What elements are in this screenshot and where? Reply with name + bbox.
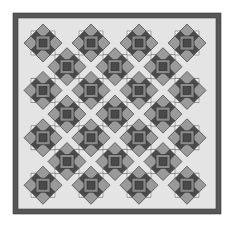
square-center (183, 134, 191, 142)
quilt-image (0, 0, 236, 225)
square-center (39, 181, 47, 189)
framed-squares (36, 36, 194, 192)
square-center (159, 158, 167, 166)
square-center (159, 110, 167, 118)
square-center (183, 181, 191, 189)
square-center (183, 39, 191, 47)
square-center (111, 158, 119, 166)
square-center (63, 63, 71, 71)
square-center (111, 63, 119, 71)
square-center (87, 181, 95, 189)
square-center (87, 134, 95, 142)
square-center (39, 86, 47, 94)
square-center (135, 134, 143, 142)
square-center (39, 39, 47, 47)
square-center (63, 110, 71, 118)
square-center (63, 158, 71, 166)
square-center (135, 181, 143, 189)
square-center (135, 86, 143, 94)
square-center (87, 86, 95, 94)
square-center (183, 86, 191, 94)
square-center (39, 134, 47, 142)
square-center (135, 39, 143, 47)
square-center (111, 110, 119, 118)
square-center (159, 63, 167, 71)
square-center (87, 39, 95, 47)
